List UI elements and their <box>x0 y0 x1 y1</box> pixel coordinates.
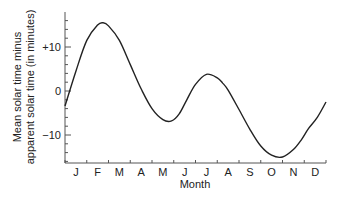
x-tick-label: S <box>246 166 253 178</box>
x-tick-label: D <box>311 166 319 178</box>
x-tick-label: J <box>73 166 79 178</box>
y-axis-label-line2: apparent solar time (in minutes) <box>24 10 37 165</box>
x-tick-label: M <box>115 166 124 178</box>
x-tick-label: F <box>94 166 101 178</box>
y-tick-label: 0 <box>55 85 61 97</box>
axes <box>65 12 326 163</box>
x-tick-label: A <box>137 166 145 178</box>
x-tick-label: A <box>224 166 232 178</box>
equation-of-time-line <box>65 23 326 158</box>
y-axis-label-line1: Mean solar time minus <box>11 10 24 165</box>
x-tick-label: J <box>182 166 188 178</box>
x-tick-label: M <box>158 166 167 178</box>
ticks <box>65 21 326 163</box>
y-tick-label: +10 <box>42 41 61 53</box>
x-tick-label: J <box>204 166 210 178</box>
chart-canvas: +100−10JFMAMJJASOND <box>0 0 342 197</box>
y-tick-label: −10 <box>42 129 61 141</box>
x-axis-label: Month <box>64 178 326 190</box>
x-tick-label: N <box>289 166 297 178</box>
y-axis-label: Mean solar time minus apparent solar tim… <box>4 12 44 162</box>
x-tick-label: O <box>267 166 276 178</box>
